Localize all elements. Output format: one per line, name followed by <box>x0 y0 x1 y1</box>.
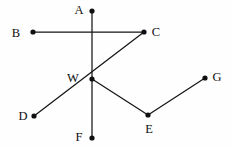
vertex-dot-G <box>202 75 207 80</box>
vertex-dots-group <box>30 8 207 140</box>
vertex-dot-E <box>145 112 150 117</box>
point-label-C: C <box>152 26 160 39</box>
vertex-dot-F <box>89 135 94 140</box>
point-label-D: D <box>18 110 27 123</box>
vertex-dot-A <box>89 8 94 13</box>
vertex-dot-B <box>30 29 35 34</box>
point-label-B: B <box>12 27 20 40</box>
segment-W-E <box>92 79 148 115</box>
figure-canvas <box>0 0 232 149</box>
geometry-figure: ABCWGDEF <box>0 0 232 149</box>
vertex-dot-W <box>89 76 94 81</box>
point-label-G: G <box>212 71 221 84</box>
point-label-E: E <box>145 123 153 136</box>
segment-E-G <box>148 78 205 115</box>
vertex-dot-C <box>141 29 146 34</box>
vertex-dot-D <box>31 113 36 118</box>
point-label-F: F <box>76 131 83 144</box>
segment-D-C <box>34 32 144 116</box>
point-label-W: W <box>67 72 79 85</box>
segments-group <box>33 11 205 138</box>
point-label-A: A <box>74 4 83 17</box>
